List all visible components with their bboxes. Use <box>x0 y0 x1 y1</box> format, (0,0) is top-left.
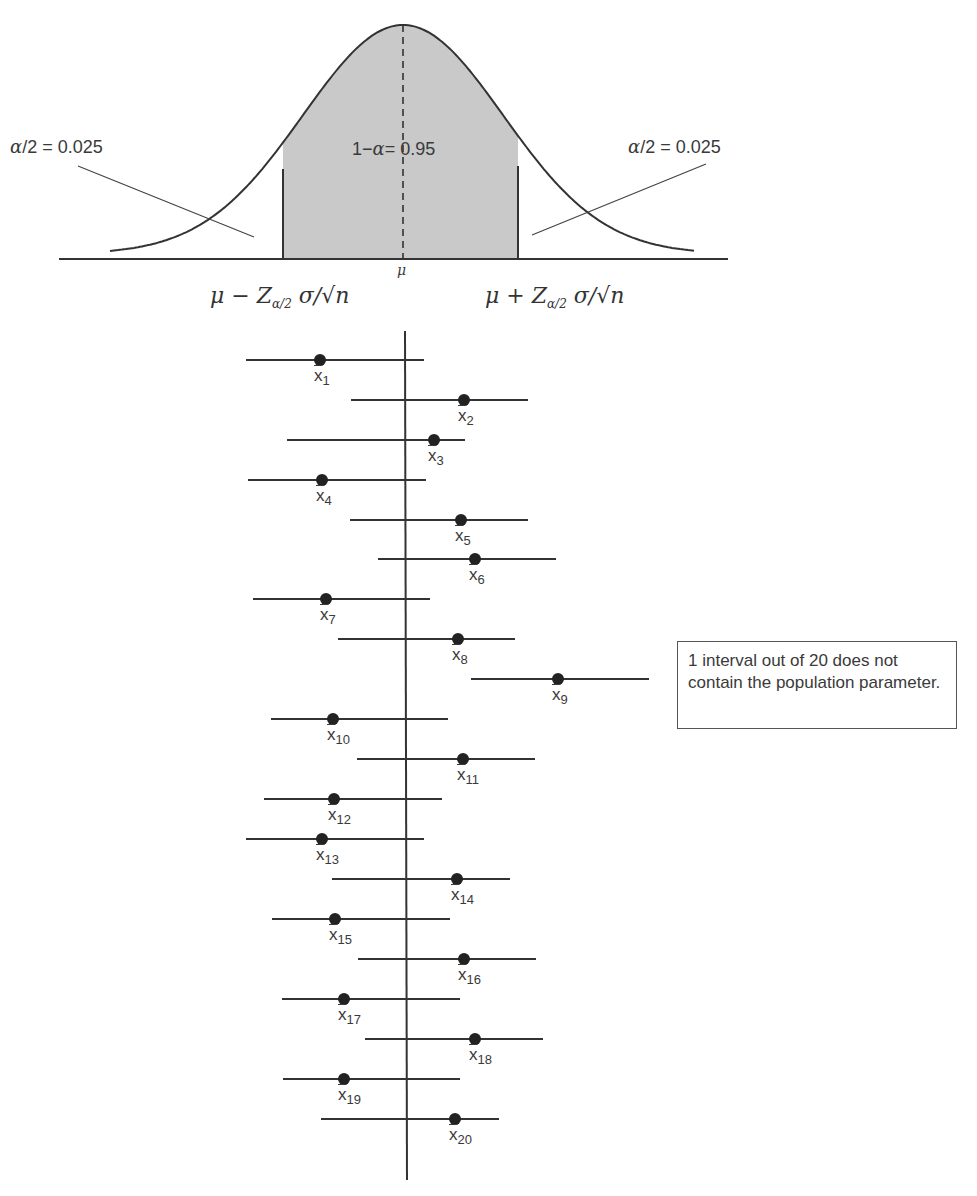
sample-mean-label: x9 <box>552 685 568 707</box>
sample-mean-label: x18 <box>469 1045 492 1067</box>
sample-mean-dot <box>338 1073 350 1085</box>
sample-mean-label: x17 <box>338 1005 361 1027</box>
sample-mean-dot <box>455 514 467 526</box>
confidence-interval-figure <box>0 0 977 1196</box>
sample-mean-label: x20 <box>449 1125 472 1147</box>
sample-mean-dot <box>320 593 332 605</box>
right-tail-text: /2 = 0.025 <box>640 137 721 157</box>
sample-mean-dot <box>338 993 350 1005</box>
lower-bound-prefix: μ − Z <box>210 283 272 308</box>
lower-bound-suffix: σ/√n <box>292 283 350 308</box>
sample-mean-dot <box>452 633 464 645</box>
sample-mean-dot <box>458 394 470 406</box>
sample-mean-dot <box>458 953 470 965</box>
interval-group <box>246 354 649 1125</box>
sample-mean-label: x11 <box>457 765 479 787</box>
sample-mean-dot <box>552 673 564 685</box>
sample-mean-dot <box>328 793 340 805</box>
sample-mean-dot <box>428 434 440 446</box>
sample-mean-label: x8 <box>452 645 468 667</box>
alpha-symbol: α <box>10 136 22 157</box>
sample-mean-dot <box>316 833 328 845</box>
sample-mean-label: x15 <box>329 925 352 947</box>
left-tail-label: α/2 = 0.025 <box>10 136 103 158</box>
sample-mean-label: x13 <box>316 845 339 867</box>
alpha-symbol: α <box>373 138 385 159</box>
center-area-label: 1−α= 0.95 <box>352 138 435 160</box>
sample-mean-dot <box>451 873 463 885</box>
sample-mean-dot <box>316 474 328 486</box>
right-tail-leader <box>532 164 706 235</box>
sample-mean-dot <box>449 1113 461 1125</box>
upper-bound-suffix: σ/√n <box>567 283 625 308</box>
right-tail-label: α/2 = 0.025 <box>628 136 721 158</box>
sample-mean-dot <box>327 713 339 725</box>
center-one: 1− <box>352 139 373 159</box>
sample-mean-dot <box>469 1033 481 1045</box>
lower-bound-label: μ − Zα/2 σ/√n <box>210 283 349 311</box>
sample-mean-label: x6 <box>469 565 485 587</box>
sample-mean-label: x4 <box>316 486 332 508</box>
alpha-symbol: α <box>628 136 640 157</box>
sample-mean-label: x19 <box>338 1085 361 1107</box>
sample-mean-dot <box>329 913 341 925</box>
sample-mean-label: x10 <box>327 725 350 747</box>
mu-label: μ <box>397 262 406 278</box>
sample-mean-label: x1 <box>314 366 330 388</box>
annotation-box: 1 interval out of 20 does not contain th… <box>677 641 957 729</box>
left-tail-text: /2 = 0.025 <box>22 137 103 157</box>
sample-mean-label: x5 <box>455 526 471 548</box>
sample-mean-label: x12 <box>328 805 351 827</box>
lower-bound-sub: α/2 <box>272 297 292 311</box>
left-tail-leader <box>78 166 254 237</box>
sample-mean-label: x14 <box>451 885 474 907</box>
upper-bound-sub: α/2 <box>547 297 567 311</box>
sample-mean-dot <box>469 553 481 565</box>
sample-mean-label: x16 <box>458 965 481 987</box>
sample-mean-label: x2 <box>458 406 474 428</box>
sample-mean-label: x7 <box>320 605 336 627</box>
sample-mean-dot <box>457 753 469 765</box>
upper-bound-label: μ + Zα/2 σ/√n <box>485 283 624 311</box>
sample-mean-label: x3 <box>428 446 444 468</box>
sample-mean-dot <box>314 354 326 366</box>
mu-vertical-axis <box>405 331 407 1180</box>
upper-bound-prefix: μ + Z <box>485 283 547 308</box>
center-rest: = 0.95 <box>385 139 436 159</box>
